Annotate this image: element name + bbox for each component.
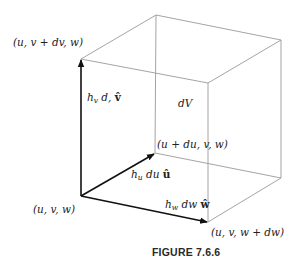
w-vector-unit: ŵ bbox=[200, 198, 211, 210]
v-vector-scale: h bbox=[87, 91, 94, 103]
vertex-label-origin: (u, v, w) bbox=[33, 203, 75, 215]
edge-top-left-back bbox=[81, 15, 156, 59]
cube-edges bbox=[81, 15, 281, 222]
figure-caption: FIGURE 7.6.6 bbox=[152, 246, 220, 258]
edge-bottom-back-right bbox=[155, 153, 281, 178]
vertex-label-u-step: (u + du, v, w) bbox=[157, 138, 228, 150]
v-vector-label: hv d, v̂ bbox=[87, 91, 122, 105]
v-vector-unit: v̂ bbox=[114, 91, 122, 103]
volume-label: dV bbox=[178, 97, 194, 109]
u-vector-unit: û bbox=[163, 168, 171, 180]
w-vector-scale: h bbox=[165, 198, 172, 210]
edge-top-left-front bbox=[81, 59, 208, 83]
curvilinear-volume-element-diagram: (u, v + dv, w) (u, v, w) (u + du, v, w) … bbox=[0, 0, 304, 267]
vertex-label-v-step: (u, v + dv, w) bbox=[13, 36, 83, 48]
w-vector-diff: dw bbox=[178, 198, 200, 210]
edge-top-back-right bbox=[156, 15, 281, 40]
edge-bottom-front-right bbox=[208, 178, 281, 222]
v-vector-diff: d, bbox=[98, 91, 115, 103]
edge-top-front-right bbox=[208, 40, 281, 83]
w-vector-label: hw dw ŵ bbox=[165, 198, 211, 212]
u-vector-scale: h bbox=[131, 168, 138, 180]
u-vector-diff: du bbox=[143, 168, 163, 180]
edge-back-vertical bbox=[155, 15, 156, 153]
vertex-label-w-step: (u, v, w + dw) bbox=[211, 226, 284, 238]
u-vector-label: hu du û bbox=[131, 168, 171, 182]
